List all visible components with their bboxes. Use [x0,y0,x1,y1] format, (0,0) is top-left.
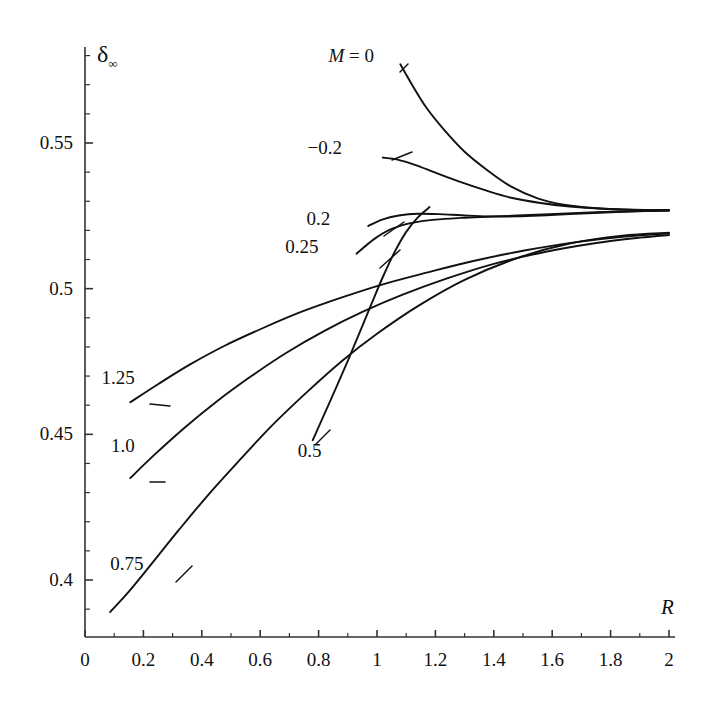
x-axis-tick-label: 1.8 [599,649,623,671]
curve-annotation-label: M = 0 [329,45,375,67]
chart-figure: δ∞ R 00.20.40.60.811.21.41.61.820.40.450… [0,0,709,704]
label-leader-line [384,222,404,236]
curve-annotation-label: 0.75 [110,553,143,575]
x-axis-tick-label: 2 [664,649,674,671]
curve-annotation-label: 0.5 [298,440,322,462]
curve-series [110,233,669,612]
y-axis-symbol-subscript: ∞ [108,56,117,71]
curve-series [130,235,669,478]
label-leader-line [380,250,400,268]
plot-area [0,0,709,704]
x-axis-tick-label: 1.2 [424,649,448,671]
label-leader-line [392,152,412,160]
x-axis-tick-label: 1.4 [482,649,506,671]
curve-series [383,158,669,211]
curve-annotation-label: −0.2 [307,137,341,159]
y-axis-tick-label: 0.55 [40,132,73,154]
curve-series [400,64,669,210]
label-leader-line [176,566,192,582]
curve-annotation-label: 1.25 [101,367,134,389]
x-axis-tick-label: 0.4 [190,649,214,671]
curves-group [110,64,669,612]
curve-annotation-label: 1.0 [111,435,135,457]
y-axis-tick-label: 0.45 [40,423,73,445]
x-axis-tick-label: 0 [80,649,90,671]
y-axis-tick-label: 0.4 [49,569,73,591]
curve-annotation-label: 0.25 [285,236,318,258]
axes-group [85,47,675,637]
label-leader-line [150,404,170,406]
y-axis-tick-label: 0.5 [49,277,73,299]
curve-annotation-label: 0.2 [307,208,331,230]
y-axis-symbol-delta: δ [97,41,108,67]
x-axis-tick-label: 1 [372,649,382,671]
x-axis-tick-label: 0.2 [132,649,156,671]
y-axis-title: δ∞ [97,41,118,72]
x-axis-tick-label: 0.6 [248,649,272,671]
x-axis-tick-label: 0.8 [307,649,331,671]
x-axis-title: R [661,595,674,620]
x-axis-tick-label: 1.6 [540,649,564,671]
curve-annotation-variable: M [329,45,345,66]
